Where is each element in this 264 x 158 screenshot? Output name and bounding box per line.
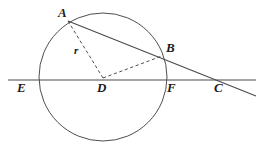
geometry-figure: A B C D E F r [0, 0, 264, 158]
point-label-a: A [58, 6, 67, 19]
radius-segment-d-b [103, 56, 162, 78]
point-label-f: F [167, 81, 176, 94]
point-label-b: B [166, 41, 175, 54]
point-label-c: C [214, 81, 223, 94]
point-label-d: D [97, 81, 106, 94]
radius-length-label-r: r [74, 45, 78, 56]
geometry-canvas [0, 0, 264, 158]
main-circle [39, 13, 167, 141]
point-label-e: E [17, 81, 26, 94]
